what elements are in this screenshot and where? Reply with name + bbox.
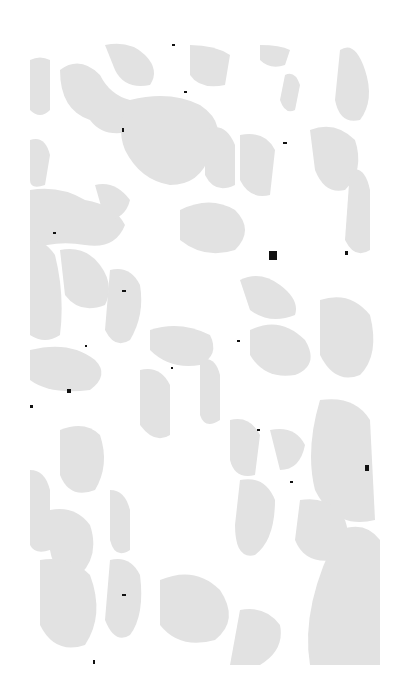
texture-image xyxy=(0,0,410,699)
